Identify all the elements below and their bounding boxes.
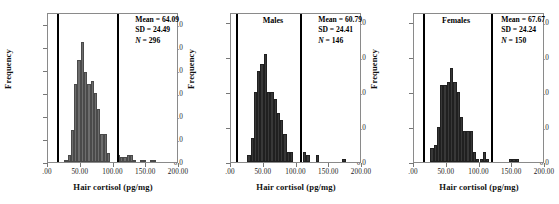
mean-label: Mean = 60.79 [318, 15, 362, 25]
x-axis-title: Hair cortisol (pg/mg) [34, 182, 192, 192]
histogram-bar [306, 155, 309, 162]
histogram-bar [143, 160, 146, 162]
reference-line [57, 14, 59, 162]
x-tick-mark [263, 163, 264, 167]
sd-label: SD = 24.41 [318, 25, 362, 35]
histogram-bar [516, 159, 519, 162]
stats-annotation: Mean = 60.79SD = 24.41N = 146 [318, 15, 362, 46]
x-tick-mark [296, 163, 297, 167]
histogram-panel-1: 0.010.020.030.040.050.060.0.0050.00100.0… [0, 0, 183, 204]
panel-group-title: Males [238, 16, 308, 25]
histogram-bar [316, 155, 319, 162]
n-value: = 296 [141, 36, 161, 45]
x-tick-mark [511, 163, 512, 167]
y-axis-title: Frequency [186, 37, 196, 101]
x-tick-mark [145, 163, 146, 167]
x-tick-mark [361, 163, 362, 167]
histogram-bar [342, 159, 345, 162]
mean-label: Mean = 64.09 [135, 15, 179, 25]
x-tick-mark [413, 163, 414, 167]
x-tick-mark [113, 163, 114, 167]
histogram-panel-3: 0.010.020.030.040.0.0050.00100.00150.002… [366, 0, 549, 204]
n-label: N = 150 [501, 36, 545, 46]
x-tick-label: 200.00 [524, 168, 559, 176]
x-tick-mark [479, 163, 480, 167]
x-tick-mark [328, 163, 329, 167]
n-value: = 146 [324, 36, 344, 45]
histogram-bar [486, 159, 489, 162]
stats-annotation: Mean = 64.09SD = 24.49N = 296 [135, 15, 179, 46]
histogram-bar [133, 160, 136, 162]
sd-label: SD = 24.49 [135, 25, 179, 35]
x-tick-mark [47, 163, 48, 167]
x-tick-mark [178, 163, 179, 167]
histogram-bar [107, 153, 110, 162]
n-label: N = 146 [318, 36, 362, 46]
n-value: = 150 [507, 36, 527, 45]
x-tick-mark [544, 163, 545, 167]
panel-group-title: Females [421, 16, 491, 25]
x-axis-title: Hair cortisol (pg/mg) [400, 182, 558, 192]
reference-line [423, 14, 425, 162]
histogram-bar [290, 152, 293, 162]
stats-annotation: Mean = 67.67SD = 24.24N = 150 [501, 15, 545, 46]
sd-label: SD = 24.24 [501, 25, 545, 35]
x-tick-mark [230, 163, 231, 167]
y-axis-title: Frequency [369, 37, 379, 101]
reference-line [236, 14, 238, 162]
reference-line [491, 14, 493, 162]
reference-line [117, 14, 119, 162]
reference-line [300, 14, 302, 162]
mean-label: Mean = 67.67 [501, 15, 545, 25]
histogram-panel-2: 0.010.020.030.040.0.0050.00100.00150.002… [183, 0, 366, 204]
x-tick-mark [80, 163, 81, 167]
x-tick-mark [446, 163, 447, 167]
y-axis-title: Frequency [3, 37, 13, 101]
n-label: N = 296 [135, 36, 179, 46]
histogram-bar [153, 160, 156, 162]
x-axis-title: Hair cortisol (pg/mg) [217, 182, 375, 192]
